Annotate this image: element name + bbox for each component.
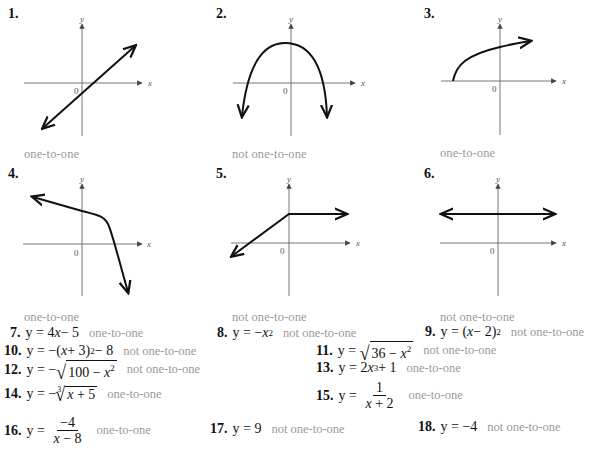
equation-7-const: − 5 [61, 325, 79, 341]
equation-8-lhs: y = [233, 325, 251, 341]
graph-1-answer: one-to-one [24, 147, 79, 162]
equation-8-exp: 2 [269, 328, 274, 338]
svg-text:0: 0 [74, 86, 79, 96]
svg-text:0: 0 [283, 86, 288, 96]
problem-number-3: 3. [424, 6, 435, 22]
equation-10-const: − 8 [95, 343, 113, 359]
equation-8: 8. y = −x2 not one-to-one [217, 325, 356, 341]
graph-4-answer: one-to-one [24, 310, 79, 325]
equation-15: 15. y = 1x + 2 one-to-one [316, 380, 463, 411]
equation-9-number: 9. [425, 324, 436, 340]
equation-16: 16. y = −4x − 8 one-to-one [4, 415, 151, 446]
equation-8-answer: not one-to-one [283, 326, 356, 341]
equation-11-answer: not one-to-one [423, 343, 496, 358]
equation-10-open: −( [48, 343, 61, 359]
equation-10-rest: + 3) [67, 343, 90, 359]
svg-text:0: 0 [74, 248, 79, 258]
problem-number-4: 4. [8, 166, 19, 182]
svg-text:x: x [360, 78, 365, 88]
equation-9-rest: − 2) [473, 324, 496, 340]
graph-2-answer: not one-to-one [232, 147, 307, 162]
equation-14-answer: one-to-one [107, 387, 161, 402]
equation-13: 13. y = 2x3 + 1 one-to-one [316, 360, 461, 376]
problem-number-1: 1. [8, 6, 19, 22]
equation-8-number: 8. [217, 325, 228, 341]
graph-1-line-increasing: y x 0 [20, 10, 160, 140]
radical-sign-icon: √ [56, 363, 66, 381]
equation-18: 18. y = −4 not one-to-one [418, 419, 561, 435]
svg-text:y: y [495, 174, 500, 184]
graph-3-square-root: y x 0 [436, 10, 576, 140]
equation-13-const: + 1 [378, 360, 396, 376]
equation-10-number: 10. [4, 343, 22, 359]
equation-18-lhs: y = [441, 419, 459, 435]
equation-16-denominator-const: − 8 [60, 431, 82, 446]
equation-15-numerator: 1 [373, 380, 386, 396]
equation-9-lhs: y = [441, 324, 459, 340]
equation-18-number: 18. [418, 419, 436, 435]
equation-14-const: + 5 [73, 387, 95, 402]
equation-11-exp: 2 [407, 344, 412, 354]
graph-6-horizontal-line: y x 0 [438, 170, 578, 300]
radical-sign-icon: √ [55, 385, 65, 403]
svg-text:x: x [147, 78, 152, 88]
equation-18-answer: not one-to-one [487, 420, 560, 435]
svg-text:y: y [497, 14, 502, 24]
equation-15-fraction: 1x + 2 [362, 380, 396, 411]
svg-text:y: y [286, 174, 291, 184]
equation-16-lhs: y = [27, 423, 45, 439]
equation-14-lhs: y = [27, 386, 45, 402]
equation-7: 7. y = 4x − 5 one-to-one [10, 325, 143, 341]
svg-text:0: 0 [280, 246, 285, 256]
equation-11-radical: √36 − x2 [360, 341, 414, 361]
svg-text:x: x [561, 76, 566, 86]
equation-17-answer: not one-to-one [271, 422, 344, 437]
equation-7-number: 7. [10, 325, 21, 341]
graph-6-answer: not one-to-one [440, 310, 515, 325]
svg-text:x: x [561, 238, 566, 248]
equation-17-value: 9 [254, 421, 261, 437]
equation-9: 9. y = (x − 2)2 not one-to-one [425, 324, 584, 340]
equation-12-number: 12. [4, 362, 22, 378]
equation-12-radicand: 100 − [68, 365, 104, 380]
equation-9-exp: 2 [496, 327, 501, 337]
svg-text:0: 0 [492, 84, 497, 94]
equation-17-lhs: y = [233, 421, 251, 437]
equation-13-number: 13. [316, 360, 334, 376]
svg-text:x: x [355, 238, 360, 248]
graph-5-ramp-then-flat: y x 0 [228, 170, 368, 300]
equation-13-lhs: y = [339, 360, 357, 376]
equation-14-number: 14. [4, 386, 22, 402]
svg-text:x: x [146, 239, 151, 249]
equation-7-lhs: y = [26, 325, 44, 341]
equation-16-answer: one-to-one [97, 423, 151, 438]
equation-11-number: 11. [316, 343, 333, 359]
graph-2-downward-parabola: y x 0 [230, 10, 370, 140]
equation-17-number: 17. [210, 421, 228, 437]
equation-13-answer: one-to-one [407, 361, 461, 376]
equation-10-lhs: y = [27, 343, 45, 359]
equation-12-answer: not one-to-one [127, 362, 200, 377]
graph-3-answer: one-to-one [440, 146, 495, 161]
equation-12-radical: √100 − x2 [56, 360, 117, 380]
problem-number-6: 6. [424, 166, 435, 182]
equation-7-answer: one-to-one [89, 326, 143, 341]
equation-12-exp: 2 [110, 363, 115, 373]
equation-9-answer: not one-to-one [511, 325, 584, 340]
svg-text:y: y [79, 14, 84, 24]
equation-12: 12. y = − √100 − x2 not one-to-one [4, 360, 200, 380]
equation-18-value: −4 [462, 419, 477, 435]
problem-number-5: 5. [216, 166, 227, 182]
equation-15-denominator-const: + 2 [372, 396, 394, 411]
problem-number-2: 2. [216, 6, 227, 22]
equation-15-lhs: y = [339, 388, 357, 404]
graph-5-answer: not one-to-one [232, 310, 307, 325]
equation-15-answer: one-to-one [409, 388, 463, 403]
equation-10-answer: not one-to-one [123, 344, 196, 359]
equation-12-lhs: y = [27, 362, 45, 378]
svg-text:y: y [288, 14, 293, 24]
equation-12-sign: − [48, 362, 56, 378]
equation-17: 17. y = 9 not one-to-one [210, 421, 345, 437]
equation-15-number: 15. [316, 388, 334, 404]
graph-4-decreasing-bend: y x 0 [20, 170, 160, 300]
